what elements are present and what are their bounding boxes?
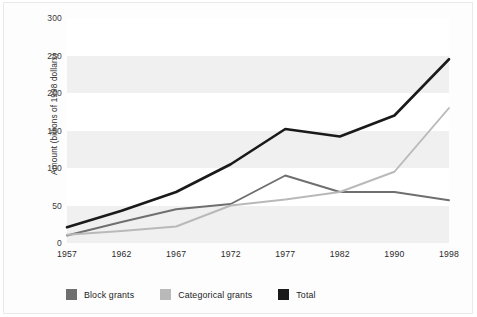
y-tick-label: 300	[32, 13, 62, 23]
x-tick-label: 1977	[262, 249, 308, 259]
legend-label: Block grants	[84, 290, 134, 300]
y-axis-ticks: 300250200150100500	[28, 18, 62, 243]
series-line	[67, 176, 449, 236]
y-tick-label: 200	[32, 88, 62, 98]
x-tick-label: 1967	[153, 249, 199, 259]
y-tick-label: 0	[32, 238, 62, 248]
legend-item[interactable]: Block grants	[66, 289, 134, 300]
chart-legend: Block grantsCategorical grantsTotal	[66, 289, 342, 300]
x-tick-label: 1957	[44, 249, 90, 259]
series-line	[67, 108, 449, 235]
x-tick-label: 1982	[317, 249, 363, 259]
x-tick-label: 1962	[99, 249, 145, 259]
chart-figure: Amount (billions of 1998 dollars) 300250…	[0, 0, 477, 317]
legend-swatch-icon	[278, 289, 289, 300]
x-tick-label: 1972	[208, 249, 254, 259]
legend-swatch-icon	[66, 289, 77, 300]
series-lines	[67, 18, 449, 243]
y-tick-label: 150	[32, 126, 62, 136]
x-tick-label: 1990	[371, 249, 417, 259]
figure-frame: Amount (billions of 1998 dollars) 300250…	[3, 2, 473, 314]
y-tick-label: 250	[32, 51, 62, 61]
y-tick-label: 50	[32, 201, 62, 211]
x-axis-ticks: 19571962196719721977198219901998	[67, 249, 449, 265]
legend-label: Total	[296, 290, 315, 300]
legend-item[interactable]: Total	[278, 289, 315, 300]
legend-item[interactable]: Categorical grants	[160, 289, 252, 300]
plot-area	[67, 18, 449, 243]
legend-label: Categorical grants	[178, 290, 252, 300]
legend-swatch-icon	[160, 289, 171, 300]
x-tick-label: 1998	[426, 249, 472, 259]
y-tick-label: 100	[32, 163, 62, 173]
